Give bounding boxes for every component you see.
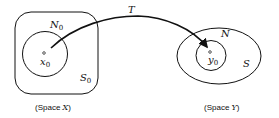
- space-y: y0 N S (Space Y): [177, 28, 261, 112]
- caption-space-y: (Space Y): [204, 103, 240, 112]
- point-y0-marker: [209, 51, 212, 54]
- label-x0: x0: [40, 56, 50, 69]
- space-x: x0 N0 S0 (Space X): [15, 12, 98, 112]
- set-s-ellipse: [177, 28, 261, 84]
- label-n: N: [220, 28, 231, 39]
- label-s: S: [243, 58, 250, 69]
- label-s0: S0: [80, 72, 91, 85]
- point-x0-marker: [43, 52, 46, 55]
- caption-space-x: (Space X): [35, 103, 71, 112]
- label-y0: y0: [207, 54, 218, 67]
- mapping-arrow: [51, 16, 207, 48]
- label-t: T: [128, 4, 136, 15]
- label-n0: N0: [49, 19, 63, 32]
- mapping-diagram: x0 N0 S0 (Space X) T y0 N S (Space Y): [0, 0, 279, 118]
